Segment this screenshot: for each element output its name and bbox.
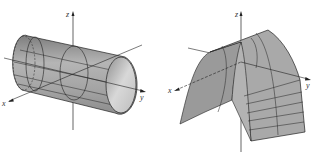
x-axis-label: x [1, 99, 6, 108]
cylinder-figure: z x y [0, 0, 160, 162]
y-axis-label: y [305, 81, 310, 90]
x-axis-label: x [167, 86, 172, 95]
y-axis-label: y [139, 93, 144, 102]
parabolic-cylinder-figure: z x y [160, 0, 319, 162]
x-arrow-icon [174, 88, 180, 92]
z-arrow-icon [240, 11, 243, 16]
y-arrow-icon [305, 77, 311, 81]
x-arrow-icon [8, 99, 14, 103]
z-axis-label: z [65, 10, 70, 19]
z-axis-label: z [234, 10, 239, 19]
cylinder-diagram: z x y [0, 0, 160, 162]
parabolic-cylinder-diagram: z x y [160, 0, 319, 162]
z-arrow-icon [72, 11, 75, 16]
y-arrow-icon [140, 89, 146, 93]
cylinder-end-cap [106, 57, 136, 113]
